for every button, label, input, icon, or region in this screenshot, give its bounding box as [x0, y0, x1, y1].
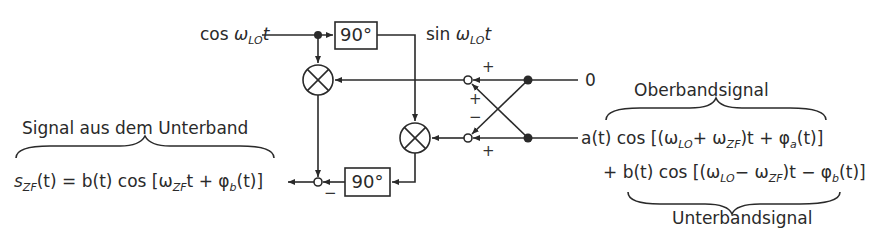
eq-rest3: (t)]: [237, 171, 264, 191]
sign-bottom-cross: −: [469, 110, 482, 125]
eq-s: s: [14, 171, 23, 191]
sin-func: sin: [426, 24, 450, 44]
phase-shift-top-label: 90°: [335, 26, 377, 44]
in2-s1: LO: [720, 172, 734, 185]
in1-p1: a(t) cos [(ω: [581, 128, 678, 148]
phase-shift-bottom-label: 90°: [345, 173, 390, 191]
in1-s3: a: [790, 138, 797, 151]
input-equation-line2: + b(t) cos [(ωLO− ωZF)t − φb(t)]: [603, 164, 866, 184]
top-input-zero: 0: [585, 72, 596, 89]
sign-output-node: −: [324, 186, 337, 201]
lo-sub: LO: [248, 34, 262, 47]
eq-sub-zf: ZF: [23, 181, 37, 194]
sin-sub: LO: [470, 34, 484, 47]
signal-unterband-label: Signal aus dem Unterband: [22, 120, 248, 137]
in1-s1: LO: [678, 138, 692, 151]
in2-s2: ZF: [769, 172, 783, 185]
unterband-label: Unterbandsignal: [672, 210, 812, 227]
output-equation: sZF(t) = b(t) cos [ωZFt + φb(t)]: [14, 173, 263, 193]
lo-var: t: [263, 24, 270, 44]
input-equation-line1: a(t) cos [(ωLO+ ωZF)t + φa(t)]: [581, 130, 823, 150]
lo-omega: ω: [234, 24, 248, 44]
eq-rest2: t + φ: [187, 171, 230, 191]
sin-omega: ω: [456, 24, 470, 44]
oberband-label: Oberbandsignal: [634, 82, 769, 99]
sign-top-cross: +: [469, 92, 482, 107]
in2-p4: (t)]: [839, 162, 866, 182]
sign-bottom-right: +: [482, 144, 495, 159]
sign-top-right: +: [482, 60, 495, 75]
in1-p4: (t)]: [797, 128, 824, 148]
sin-var: t: [484, 24, 491, 44]
in1-s2: ZF: [727, 138, 741, 151]
in2-p1: b(t) cos [(ω: [623, 162, 721, 182]
eq-rest: (t) = b(t) cos [ω: [37, 171, 173, 191]
lo-shifted-label: sin ωLOt: [426, 26, 491, 46]
in2-p2: − ω: [735, 162, 769, 182]
lo-input-label: cos ωLOt: [200, 26, 269, 46]
eq-sub-b: b: [230, 181, 237, 194]
in1-p2: + ω: [693, 128, 727, 148]
lo-func: cos: [200, 24, 229, 44]
in2-p0: +: [603, 162, 623, 182]
in1-p3: )t + φ: [740, 128, 790, 148]
in2-p3: )t − φ: [783, 162, 833, 182]
eq-sub-zf2: ZF: [173, 181, 187, 194]
